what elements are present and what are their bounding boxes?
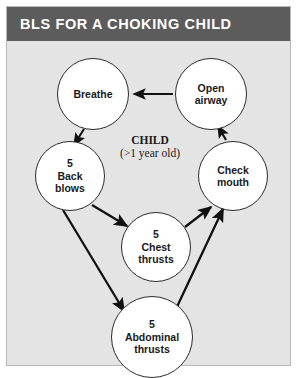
node-breathe-label: Breathe	[69, 88, 116, 101]
node-abdominal-thrusts[interactable]: 5 Abdominal thrusts	[111, 296, 193, 378]
edge-back-blows-to-chest-thrusts	[92, 205, 127, 226]
node-chest-thrusts[interactable]: 5 Chest thrusts	[121, 212, 191, 282]
center-annotation-title: CHILD	[99, 134, 201, 147]
edge-back-blows-to-abdominal-thrusts	[63, 210, 124, 311]
diagram-canvas: Breathe Open airway 5 Back blows Check m…	[7, 41, 290, 367]
node-back-blows-label: 5 Back blows	[51, 157, 89, 195]
node-back-blows[interactable]: 5 Back blows	[35, 141, 105, 211]
edge-chest-thrusts-to-check-mouth	[185, 207, 211, 227]
node-check-mouth-label: Check mouth	[213, 164, 253, 189]
center-annotation-subtitle: (>1 year old)	[99, 147, 201, 160]
title-bar: BLS FOR A CHOKING CHILD	[7, 7, 290, 41]
node-breathe[interactable]: Breathe	[57, 58, 129, 130]
center-annotation: CHILD (>1 year old)	[99, 134, 201, 160]
node-open-airway[interactable]: Open airway	[175, 58, 247, 130]
diagram-card: BLS FOR A CHOKING CHILD	[6, 6, 291, 366]
node-open-airway-label: Open airway	[191, 82, 232, 107]
page-title: BLS FOR A CHOKING CHILD	[20, 7, 232, 41]
node-abdominal-thrusts-label: 5 Abdominal thrusts	[121, 318, 183, 356]
node-check-mouth[interactable]: Check mouth	[198, 141, 268, 211]
node-chest-thrusts-label: 5 Chest thrusts	[134, 228, 178, 266]
